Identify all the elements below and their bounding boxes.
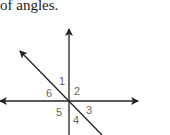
angle-label-3: 3	[86, 104, 92, 116]
angle-label-1: 1	[59, 75, 65, 87]
angle-label-5: 5	[56, 106, 62, 118]
intersecting-lines-diagram: 1 2 3 4 5 6	[0, 0, 170, 135]
diagonal-line	[20, 51, 102, 135]
angle-label-2: 2	[74, 85, 80, 97]
angle-label-4: 4	[73, 114, 79, 126]
angle-label-6: 6	[46, 87, 52, 99]
